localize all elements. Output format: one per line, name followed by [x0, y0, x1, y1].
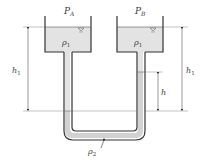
manometer-diagram: PA PB ρ1 ρ1 h1 h1 h ρ2 — [0, 0, 205, 164]
label-h1-left: h1 — [12, 66, 21, 76]
u-tube-fluid2 — [65, 72, 143, 138]
right-tank-fluid — [117, 27, 163, 52]
u-tube-inner-wall — [72, 52, 137, 131]
rho2-pointer — [101, 140, 104, 148]
left-tube-fluid1 — [65, 52, 70, 111]
label-pa: PA — [63, 6, 75, 17]
u-tube-outer-wall — [64, 52, 145, 140]
label-h1-right: h1 — [186, 66, 195, 76]
left-tank-fluid — [45, 27, 91, 52]
rho2-pointer-dot — [103, 139, 105, 141]
label-pb: PB — [134, 6, 146, 17]
right-tube-fluid1 — [138, 52, 143, 72]
label-rho2: ρ2 — [87, 147, 96, 157]
label-h: h — [161, 88, 166, 97]
